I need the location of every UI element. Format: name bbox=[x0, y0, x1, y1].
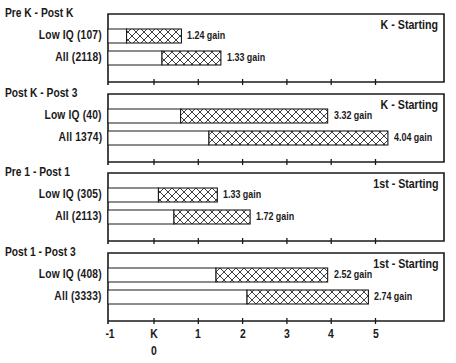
x-tick-label: 4 bbox=[323, 326, 339, 341]
gain-bar bbox=[127, 29, 182, 43]
row-label: All (2113) bbox=[55, 209, 102, 223]
x-tick-sublabel: 0 bbox=[146, 343, 162, 358]
row-label: Low IQ (40) bbox=[45, 108, 102, 122]
period-label: Pre 1 - Post 1 bbox=[5, 165, 70, 179]
gain-value-label: 1.33 gain bbox=[227, 51, 265, 63]
baseline-bar bbox=[108, 51, 162, 65]
x-tick-label: K bbox=[146, 326, 162, 341]
row-label: All (2118) bbox=[55, 50, 102, 64]
cohort-title: 1st - Starting bbox=[373, 256, 438, 271]
baseline-bar bbox=[108, 188, 158, 202]
baseline-bar bbox=[108, 210, 174, 224]
row-label: Low IQ (107) bbox=[39, 28, 102, 42]
row-label: Low IQ (305) bbox=[39, 187, 102, 201]
gain-bar bbox=[174, 210, 250, 224]
baseline-bar bbox=[108, 290, 247, 304]
baseline-bar bbox=[108, 109, 181, 123]
gain-value-label: 2.74 gain bbox=[374, 290, 412, 302]
gain-value-label: 4.04 gain bbox=[394, 131, 432, 143]
row-label: All (3333) bbox=[55, 289, 102, 303]
x-tick-label: -1 bbox=[102, 326, 118, 341]
x-tick-label: 1 bbox=[190, 326, 206, 341]
x-tick-label: 2 bbox=[235, 326, 251, 341]
row-label: Low IQ (408) bbox=[39, 267, 102, 281]
gain-bar bbox=[181, 109, 328, 123]
gain-bar bbox=[162, 51, 221, 65]
x-tick-label: 5 bbox=[368, 326, 384, 341]
baseline-bar bbox=[108, 268, 216, 282]
gain-bar bbox=[216, 268, 328, 282]
baseline-bar bbox=[108, 29, 127, 43]
gain-value-label: 1.24 gain bbox=[187, 29, 225, 41]
gain-value-label: 2.52 gain bbox=[334, 268, 372, 280]
gain-value-label: 1.72 gain bbox=[256, 210, 294, 222]
gain-bar bbox=[158, 188, 217, 202]
cohort-title: K - Starting bbox=[381, 97, 438, 112]
baseline-bar bbox=[108, 131, 209, 145]
x-tick-label: 3 bbox=[279, 326, 295, 341]
gain-value-label: 1.33 gain bbox=[223, 188, 261, 200]
cohort-title: 1st - Starting bbox=[373, 176, 438, 191]
chart-panels bbox=[108, 14, 444, 324]
gain-value-label: 3.32 gain bbox=[334, 109, 372, 121]
period-label: Post 1 - Post 3 bbox=[5, 245, 76, 259]
row-label: All 1374) bbox=[58, 130, 102, 144]
period-label: Pre K - Post K bbox=[5, 6, 73, 20]
period-label: Post K - Post 3 bbox=[5, 86, 77, 100]
cohort-title: K - Starting bbox=[381, 17, 438, 32]
gain-bar bbox=[209, 131, 388, 145]
gain-bar bbox=[247, 290, 368, 304]
